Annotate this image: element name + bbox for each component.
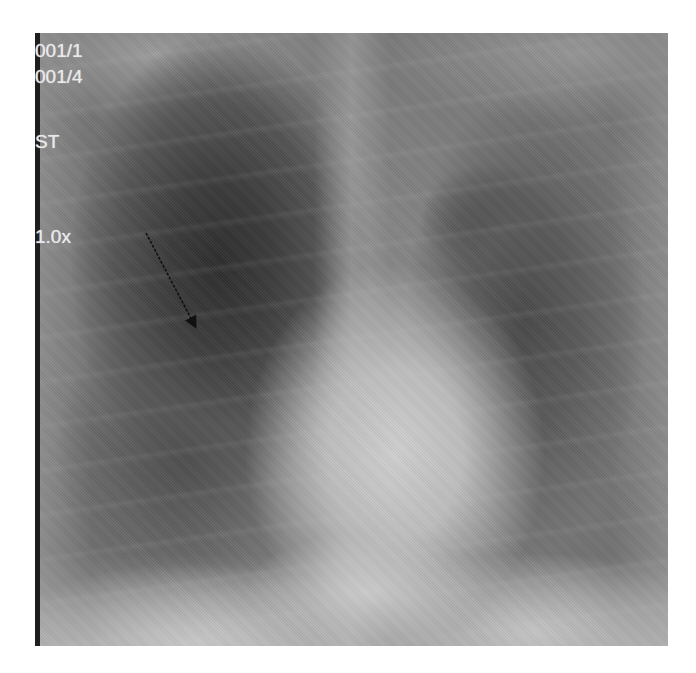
- arrow-icon: [146, 233, 195, 326]
- chest-xray-image: 001/1 001/4 ST 1.0x: [35, 33, 668, 646]
- arrow-annotation: [35, 33, 668, 646]
